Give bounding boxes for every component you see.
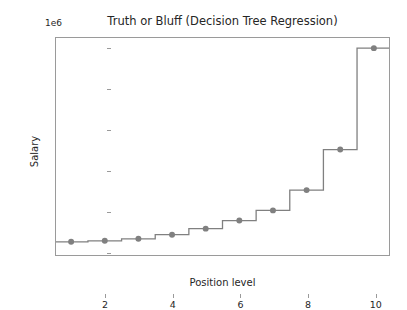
data-point-marker xyxy=(304,187,310,193)
x-tick-mark xyxy=(376,294,377,298)
plot-area xyxy=(56,38,389,255)
y-tick-mark xyxy=(107,171,111,172)
y-axis-offset-label: 1e6 xyxy=(45,18,62,28)
y-tick-mark xyxy=(107,212,111,213)
x-tick-mark xyxy=(308,294,309,298)
plot-axes: 0.00.20.40.60.81.0246810 xyxy=(55,37,390,256)
data-point-marker xyxy=(102,238,108,244)
data-point-marker xyxy=(270,207,276,213)
x-tick-label: 2 xyxy=(85,299,125,310)
data-point-marker xyxy=(169,232,175,238)
data-point-marker xyxy=(203,226,209,232)
y-tick-mark xyxy=(107,130,111,131)
y-tick-mark xyxy=(107,48,111,49)
x-axis-label: Position level xyxy=(55,277,390,288)
x-tick-label: 10 xyxy=(356,299,396,310)
data-point-marker xyxy=(236,218,242,224)
x-tick-label: 8 xyxy=(288,299,328,310)
data-point-marker xyxy=(68,239,74,245)
x-tick-label: 6 xyxy=(220,299,260,310)
y-tick-mark xyxy=(107,253,111,254)
data-point-marker xyxy=(135,236,141,242)
x-tick-mark xyxy=(173,294,174,298)
x-tick-mark xyxy=(240,294,241,298)
x-tick-mark xyxy=(105,294,106,298)
regression-step-line xyxy=(56,48,389,242)
x-tick-label: 4 xyxy=(153,299,193,310)
y-axis-label: Salary xyxy=(29,112,40,192)
data-point-marker xyxy=(371,45,377,51)
y-tick-mark xyxy=(107,89,111,90)
page-title: Truth or Bluff (Decision Tree Regression… xyxy=(55,14,390,28)
data-point-marker xyxy=(337,147,343,153)
